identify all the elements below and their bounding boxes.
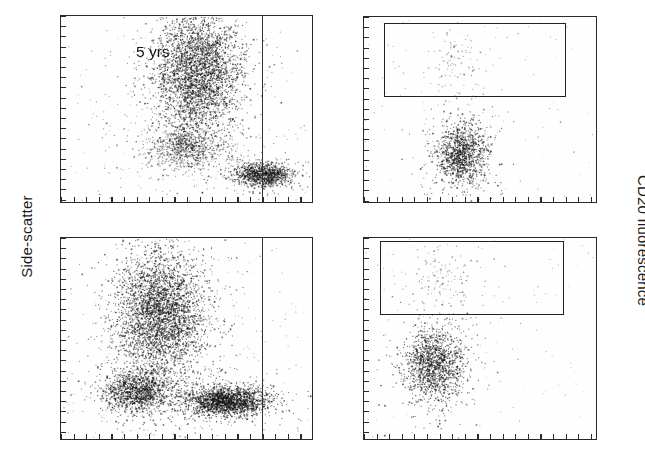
scatter-dots	[61, 238, 312, 439]
y-axis-label-right: CD20 fluorescence	[635, 136, 645, 346]
plot-frame	[60, 15, 313, 203]
y-axis-ticks	[61, 238, 66, 439]
plot-area	[61, 16, 312, 202]
gate-line-vertical	[262, 16, 263, 202]
panel-label: 5 yrs	[136, 43, 170, 61]
y-axis-ticks	[61, 16, 66, 202]
panel-ssc-90yrs: 90 yrs	[60, 237, 313, 440]
gate-line-vertical	[262, 238, 263, 439]
plot-area	[61, 238, 312, 439]
x-axis-ticks	[61, 434, 312, 439]
y-axis-ticks	[364, 17, 369, 202]
x-axis-ticks	[364, 434, 596, 439]
y-axis-ticks	[364, 238, 369, 439]
flow-cytometry-figure: Side-scatter CD20 fluorescence 5 yrs 5 y…	[0, 0, 645, 465]
x-axis-ticks	[61, 197, 312, 202]
plot-frame	[60, 237, 313, 440]
panel-ssc-5yrs: 5 yrs	[60, 15, 313, 203]
scatter-dots	[61, 16, 312, 202]
gate-box-rectangle	[384, 23, 566, 97]
plot-frame	[363, 16, 597, 203]
plot-frame	[363, 237, 597, 440]
y-axis-label-left: Side-scatter	[18, 157, 35, 317]
panel-cd20-90yrs: 90 yrs	[363, 237, 597, 440]
gate-box-rectangle	[380, 241, 564, 315]
x-axis-ticks	[364, 197, 596, 202]
panel-cd20-5yrs: 5 yrs	[363, 16, 597, 203]
